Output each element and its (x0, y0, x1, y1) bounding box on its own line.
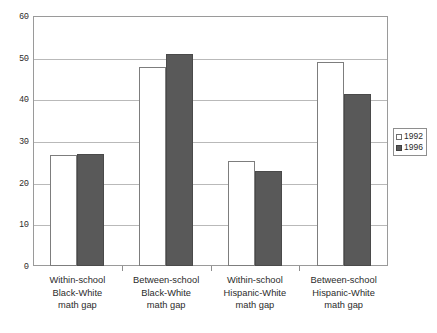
gridline (34, 59, 387, 60)
category-label-line: Hispanic-White (300, 287, 387, 300)
gridline (34, 225, 387, 226)
y-axis-tick-mark (25, 16, 29, 17)
category-label-4: Between-schoolHispanic-Whitemath gap (299, 274, 388, 326)
y-axis-tick-mark (25, 266, 29, 267)
category-label-line: Within-school (212, 274, 299, 287)
y-axis-tick-mark (25, 99, 29, 100)
x-axis-category-labels: Within-schoolBlack-Whitemath gapBetween-… (33, 274, 388, 326)
y-axis-tick-mark (25, 58, 29, 59)
category-label-1: Within-schoolBlack-Whitemath gap (33, 274, 122, 326)
category-label-line: Black-White (123, 287, 210, 300)
category-label-line: math gap (123, 299, 210, 312)
legend-label: 1992 (404, 132, 423, 141)
category-label-3: Within-schoolHispanic-Whitemath gap (211, 274, 300, 326)
category-label-line: Hispanic-White (212, 287, 299, 300)
gridline (34, 142, 387, 143)
legend-item-1996[interactable]: 1996 (396, 142, 423, 153)
x-axis-tick (211, 266, 212, 271)
y-axis: 6050403020100 (0, 16, 29, 266)
y-axis-tick-mark (25, 224, 29, 225)
category-label-line: Between-school (300, 274, 387, 287)
category-label-line: Between-school (123, 274, 210, 287)
legend-label: 1996 (404, 143, 423, 152)
gridline (34, 184, 387, 185)
legend: 1992 1996 (393, 128, 427, 156)
category-label-line: Black-White (34, 287, 121, 300)
y-axis-tick-mark (25, 183, 29, 184)
x-axis-tick (122, 266, 123, 271)
category-label-line: math gap (212, 299, 299, 312)
gridline (34, 100, 387, 101)
category-label-line: Within-school (34, 274, 121, 287)
y-axis-tick-mark (25, 141, 29, 142)
x-axis-tick (299, 266, 300, 271)
bar-chart: 6050403020100 Within-schoolBlack-Whitema… (0, 0, 437, 333)
category-label-line: math gap (34, 299, 121, 312)
hollow-square-swatch (396, 134, 402, 140)
legend-item-1992[interactable]: 1992 (396, 131, 423, 142)
plot-area (33, 16, 388, 266)
category-label-2: Between-schoolBlack-Whitemath gap (122, 274, 211, 326)
filled-square-swatch (396, 145, 402, 151)
category-label-line: math gap (300, 299, 387, 312)
